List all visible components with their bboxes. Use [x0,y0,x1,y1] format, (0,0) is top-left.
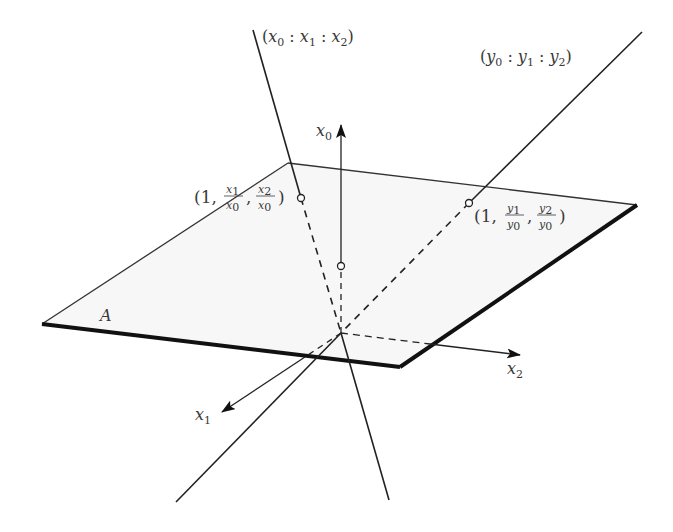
svg-text:(1,: (1, [474,206,497,226]
point-x0-base [338,263,345,270]
plane-label-A: A [98,306,112,325]
svg-text:(1,: (1, [194,187,217,207]
line-x-label: (x0 : x1 : x2) [262,27,354,49]
point-x-intersection [298,195,305,202]
svg-text:x0: x0 [226,199,239,214]
axis-x1-arrow [222,357,305,412]
line-y-label: (y0 : y1 : y2) [480,47,572,69]
point-y-intersection [466,200,473,207]
axis-x0-label: x0 [316,121,332,143]
svg-text:): ) [559,206,566,226]
svg-text:): ) [278,187,285,207]
axis-x2-arrow [430,344,520,355]
svg-text:y0: y0 [506,218,520,233]
svg-text:x0: x0 [258,199,271,214]
svg-text:,: , [527,206,532,226]
projective-plane-diagram: (x0 : x1 : x2) (y0 : y1 : y2) x0 x1 x2 A… [0,0,673,532]
axis-x1-label: x1 [195,405,211,427]
svg-text:y0: y0 [538,218,552,233]
svg-text:,: , [246,187,251,207]
axis-x2-label: x2 [507,359,523,381]
